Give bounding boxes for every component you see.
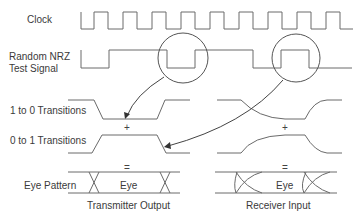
highlight-circle-2 xyxy=(272,34,320,82)
rx-one-to-zero xyxy=(217,100,342,119)
arrowhead-1 xyxy=(124,112,130,119)
tx-eye-pattern xyxy=(68,172,180,193)
tx-one-to-zero xyxy=(68,100,190,119)
rx-eye-pattern xyxy=(215,172,337,193)
highlight-circle-1 xyxy=(158,33,208,83)
nrz-waveform xyxy=(81,50,352,68)
rx-zero-to-one xyxy=(217,135,342,153)
arrow-2 xyxy=(168,80,283,146)
waveform-diagram xyxy=(0,0,357,217)
tx-zero-to-one xyxy=(68,135,190,153)
arrowhead-2 xyxy=(164,142,171,149)
clock-waveform xyxy=(81,12,353,29)
arrow-1 xyxy=(127,77,164,116)
